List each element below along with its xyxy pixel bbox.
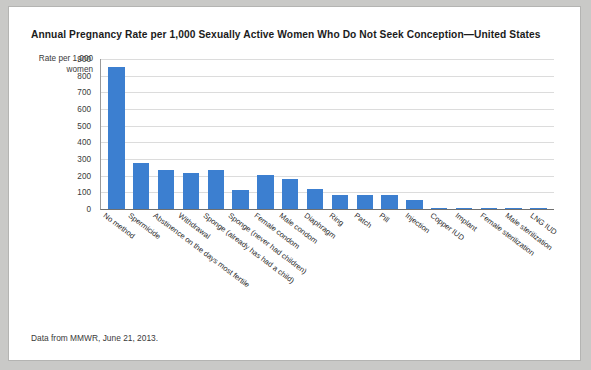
bar[interactable] [406,200,422,209]
bar[interactable] [183,173,199,209]
bar-slot [377,59,402,209]
bar[interactable] [307,189,323,209]
bar[interactable] [208,170,224,209]
bar-slot [203,59,228,209]
bar[interactable] [108,67,124,209]
y-axis-tick: 700 [65,88,95,97]
bar[interactable] [158,170,174,209]
plot-area: 9008007006005004003002001000 [69,59,569,209]
bar-slot [278,59,303,209]
bar-slot [129,59,154,209]
bar[interactable] [505,208,521,209]
y-axis-tick: 900 [65,55,95,64]
bar-slot [352,59,377,209]
y-axis-tick: 300 [65,155,95,164]
x-axis-tick-label: Ring [328,211,346,228]
y-axis-tick: 400 [65,138,95,147]
bar-slot [427,59,452,209]
y-axis-tick: 500 [65,121,95,130]
y-axis-ticks: 9008007006005004003002001000 [69,59,95,209]
bar[interactable] [530,208,546,209]
bar-series [101,59,554,209]
bar[interactable] [381,195,397,209]
y-axis-tick: 200 [65,171,95,180]
bar[interactable] [282,179,298,209]
bar[interactable] [481,208,497,209]
bar-slot [526,59,551,209]
source-footnote: Data from MMWR, June 21, 2013. [31,333,158,343]
bar-slot [154,59,179,209]
bar[interactable] [431,208,447,209]
bar-slot [303,59,328,209]
bar-slot [228,59,253,209]
chart-title: Annual Pregnancy Rate per 1,000 Sexually… [31,29,540,40]
bar-slot [501,59,526,209]
x-axis-tick-label: Pill [378,211,392,224]
chart-card: Annual Pregnancy Rate per 1,000 Sexually… [8,6,581,361]
y-axis-tick: 100 [65,188,95,197]
bar-slot [327,59,352,209]
bar-slot [253,59,278,209]
bar[interactable] [257,175,273,209]
bar-slot [476,59,501,209]
y-axis-tick: 600 [65,105,95,114]
bar-slot [178,59,203,209]
bar-slot [452,59,477,209]
x-axis-labels: No methodSpermicideAbstinence on the day… [100,211,553,321]
bar-slot [104,59,129,209]
plot-canvas [100,59,554,210]
x-axis-tick-label: Patch [353,211,374,230]
bar[interactable] [357,195,373,209]
y-axis-tick: 800 [65,71,95,80]
bar-slot [402,59,427,209]
bar[interactable] [232,190,248,209]
bar[interactable] [332,195,348,209]
bar[interactable] [456,208,472,209]
y-axis-tick: 0 [65,205,95,214]
x-axis-tick-label: Injection [403,211,431,235]
bar[interactable] [133,163,149,209]
